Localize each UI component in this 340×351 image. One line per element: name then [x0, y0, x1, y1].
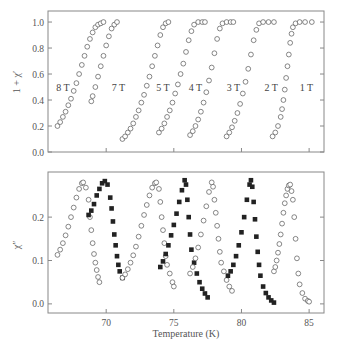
top-plot-frame	[48, 11, 324, 152]
data-point-square	[250, 184, 255, 189]
data-point-square	[197, 280, 202, 285]
data-point-square	[254, 234, 259, 239]
data-point-circle	[282, 201, 287, 206]
data-point-square	[257, 263, 262, 268]
data-point-square	[184, 182, 189, 187]
data-point-square	[195, 271, 200, 276]
data-point-circle	[155, 43, 160, 48]
data-point-circle	[123, 272, 128, 277]
data-point-circle	[131, 121, 136, 126]
data-point-circle	[277, 242, 282, 247]
data-point-circle	[159, 215, 164, 220]
data-point-circle	[281, 98, 286, 103]
data-point-circle	[297, 20, 302, 25]
data-point-square	[174, 211, 179, 216]
data-point-circle	[284, 193, 289, 198]
data-point-circle	[307, 299, 312, 304]
data-point-square	[234, 254, 239, 259]
data-point-circle	[82, 53, 87, 58]
data-point-circle	[207, 78, 212, 83]
data-point-circle	[128, 260, 133, 265]
bottom-y-axis: 0.00.10.2	[32, 213, 324, 310]
data-point-square	[113, 243, 118, 248]
data-point-circle	[196, 117, 201, 122]
data-point-circle	[144, 83, 149, 88]
data-point-circle	[142, 92, 147, 97]
data-point-square	[253, 217, 258, 222]
data-point-circle	[162, 241, 167, 246]
data-point-circle	[278, 232, 283, 237]
data-point-circle	[60, 241, 65, 246]
data-point-square	[109, 206, 114, 211]
data-point-square	[115, 254, 120, 259]
data-point-circle	[162, 121, 167, 126]
data-point-square	[200, 286, 205, 291]
data-point-circle	[181, 61, 186, 66]
data-point-circle	[85, 44, 90, 49]
data-point-square	[205, 295, 210, 300]
data-point-circle	[58, 120, 63, 125]
curve-label: 7 T	[112, 82, 125, 93]
data-point-circle	[227, 130, 232, 135]
bottom-y-axis-label: χ″	[11, 241, 22, 251]
data-point-circle	[193, 124, 198, 129]
data-point-circle	[274, 258, 279, 263]
data-point-circle	[273, 130, 278, 135]
data-point-circle	[193, 256, 198, 261]
data-point-circle	[284, 76, 289, 81]
data-point-circle	[63, 233, 68, 238]
data-point-square	[182, 178, 187, 183]
data-point-circle	[150, 185, 155, 190]
data-point-circle	[167, 108, 172, 113]
y-tick-label: 0.2	[32, 122, 44, 132]
data-point-circle	[128, 126, 133, 131]
data-point-circle	[158, 200, 163, 205]
data-point-circle	[165, 262, 170, 267]
data-point-circle	[261, 20, 266, 25]
data-point-circle	[196, 245, 201, 250]
data-point-circle	[190, 265, 195, 270]
data-point-circle	[295, 256, 300, 261]
data-point-circle	[213, 210, 218, 215]
data-point-circle	[152, 53, 157, 58]
data-point-square	[117, 269, 122, 274]
data-point-circle	[201, 218, 206, 223]
data-point-circle	[282, 87, 287, 92]
data-point-circle	[147, 193, 152, 198]
data-point-circle	[240, 91, 245, 96]
data-point-square	[188, 232, 193, 237]
data-point-square	[177, 200, 182, 205]
data-point-circle	[77, 72, 82, 77]
data-point-circle	[161, 228, 166, 233]
data-point-square	[108, 195, 113, 200]
data-point-circle	[125, 267, 130, 272]
data-point-circle	[204, 90, 209, 95]
data-point-circle	[92, 252, 97, 257]
y-tick-label: 0.0	[32, 148, 44, 158]
y-tick-label: 0.6	[32, 70, 44, 80]
data-point-square	[251, 200, 256, 205]
data-point-square	[180, 188, 185, 193]
data-point-circle	[189, 29, 194, 34]
data-point-circle	[93, 260, 98, 265]
data-point-circle	[139, 100, 144, 105]
series-4t	[158, 178, 210, 300]
data-point-circle	[79, 63, 84, 68]
data-point-square	[112, 232, 117, 237]
data-point-square	[94, 193, 99, 198]
data-point-circle	[94, 268, 99, 273]
data-point-circle	[144, 203, 149, 208]
data-point-circle	[296, 271, 301, 276]
data-point-square	[161, 259, 166, 264]
data-point-circle	[203, 20, 208, 25]
data-point-circle	[63, 109, 68, 114]
x-tick-label: 80	[237, 318, 247, 328]
data-point-circle	[230, 125, 235, 130]
data-point-circle	[251, 38, 256, 43]
data-point-circle	[289, 189, 294, 194]
data-point-square	[249, 178, 254, 183]
data-point-circle	[60, 115, 65, 120]
data-point-square	[228, 269, 233, 274]
x-tick-label: 70	[101, 318, 111, 328]
data-point-circle	[165, 115, 170, 120]
